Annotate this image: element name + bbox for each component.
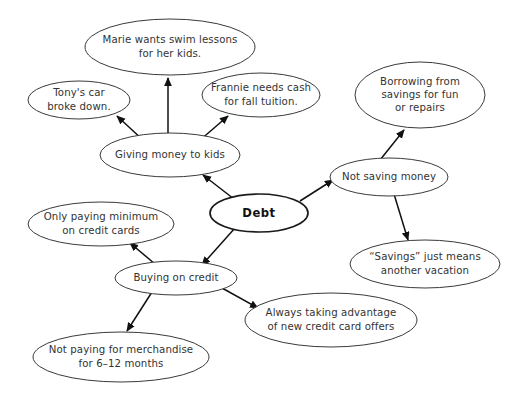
node-credit-card-offers[interactable]: Always taking advantageof new credit car…	[245, 293, 417, 347]
node-borrowing-from-savings[interactable]: Borrowing fromsavings for funor repairs	[355, 62, 485, 128]
node-label-not-saving-money: Not saving money	[342, 171, 436, 182]
nodes-layer: DebtGiving money to kidsMarie wants swim…	[28, 19, 500, 382]
edge-buying-to-minimum	[130, 243, 155, 264]
node-buying-on-credit[interactable]: Buying on credit	[115, 261, 237, 295]
node-debt[interactable]: Debt	[210, 194, 308, 232]
node-not-paying-merchandise[interactable]: Not paying for merchandisefor 6–12 month…	[33, 332, 209, 382]
edge-buying-to-merchandise	[127, 292, 152, 331]
node-label-debt: Debt	[242, 206, 275, 220]
edge-debt-to-giving	[203, 175, 234, 199]
node-only-paying-minimum[interactable]: Only paying minimumon credit cards	[28, 202, 174, 246]
concept-map-canvas: DebtGiving money to kidsMarie wants swim…	[0, 0, 514, 400]
edge-not-saving-to-vacation	[394, 194, 408, 240]
node-label-buying-on-credit: Buying on credit	[133, 272, 218, 283]
node-marie-swim-lessons[interactable]: Marie wants swim lessonsfor her kids.	[85, 19, 255, 75]
node-tonys-car[interactable]: Tony's carbroke down.	[28, 81, 130, 119]
concept-map-svg: DebtGiving money to kidsMarie wants swim…	[0, 0, 514, 400]
node-frannie-tuition[interactable]: Frannie needs cashfor fall tuition.	[202, 73, 320, 117]
node-not-saving-money[interactable]: Not saving money	[330, 158, 448, 196]
node-savings-means-vacation[interactable]: “Savings” just meansanother vacation	[350, 240, 500, 288]
node-giving-money-to-kids[interactable]: Giving money to kids	[100, 133, 240, 177]
edge-debt-to-buying	[202, 228, 235, 265]
edge-debt-to-not-saving	[300, 180, 333, 201]
node-label-giving-money-to-kids: Giving money to kids	[115, 149, 225, 160]
edge-not-saving-to-borrowing	[380, 130, 404, 160]
edge-buying-to-offers	[222, 288, 258, 308]
